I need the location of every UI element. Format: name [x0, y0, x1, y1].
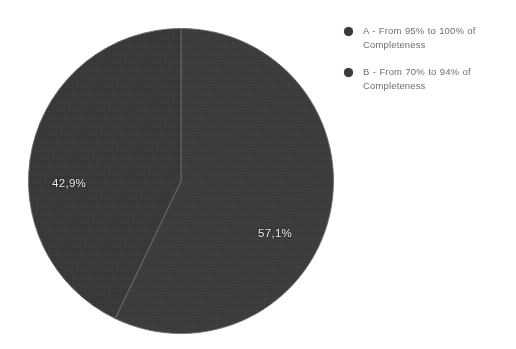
legend-marker-a-icon: [344, 27, 353, 36]
legend-item-a[interactable]: A - From 95% to 100% of Completeness: [344, 24, 508, 51]
pie-chart-plot-area: 42,9% 57,1%: [28, 28, 334, 334]
legend-marker-b-icon: [344, 68, 353, 77]
chart-legend: A - From 95% to 100% of Completeness B -…: [344, 24, 508, 106]
legend-item-b[interactable]: B - From 70% to 94% of Completeness: [344, 65, 508, 92]
pie-slice-label-a: 57,1%: [258, 227, 292, 239]
legend-item-b-label: B - From 70% to 94% of Completeness: [363, 65, 508, 92]
legend-item-a-label: A - From 95% to 100% of Completeness: [363, 24, 508, 51]
pie-slice-label-b: 42,9%: [52, 177, 86, 189]
pie-chart-figure: 42,9% 57,1% A - From 95% to 100% of Comp…: [0, 0, 516, 349]
